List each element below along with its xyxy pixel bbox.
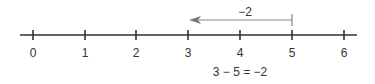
tick-label-4: 4 (237, 46, 244, 60)
tick-label-3: 3 (185, 46, 192, 60)
tick-label-6: 6 (341, 46, 348, 60)
number-line-diagram: 0 1 2 3 4 5 6 −2 3 − 5 = −2 (0, 0, 375, 84)
jump-label: −2 (238, 5, 252, 19)
tick-label-1: 1 (82, 46, 89, 60)
tick-labels: 0 1 2 3 4 5 6 (30, 46, 348, 60)
tick-label-0: 0 (30, 46, 37, 60)
tick-label-5: 5 (289, 46, 296, 60)
equation-caption: 3 − 5 = −2 (213, 65, 268, 79)
tick-label-2: 2 (133, 46, 140, 60)
